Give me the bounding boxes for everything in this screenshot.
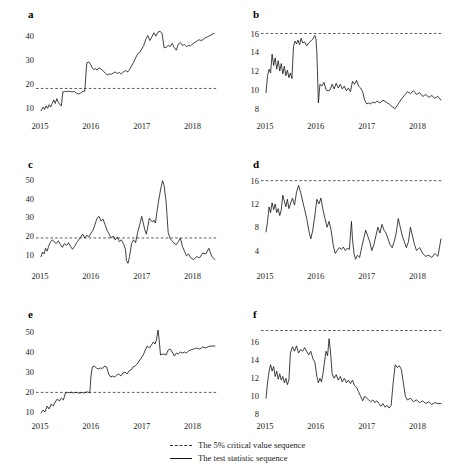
figure-container: a 102030402015201620172018 b 81012141620… xyxy=(0,0,449,475)
x-tick-label: 2016 xyxy=(307,271,324,281)
y-tick-label: 20 xyxy=(26,79,35,89)
panel-c: c 10203040502015201620172018 xyxy=(0,150,224,300)
panel-f: f 8101214162015201620172018 xyxy=(225,300,449,450)
x-tick-label: 2018 xyxy=(409,421,426,431)
test-statistic-series xyxy=(41,181,215,264)
test-statistic-series xyxy=(266,339,441,408)
y-tick-label: 16 xyxy=(251,337,260,347)
x-tick-label: 2015 xyxy=(32,421,49,431)
y-tick-label: 40 xyxy=(26,347,35,357)
x-tick-label: 2016 xyxy=(82,271,99,281)
y-tick-label: 8 xyxy=(255,409,259,419)
y-tick-label: 4 xyxy=(255,246,260,256)
x-tick-label: 2017 xyxy=(358,271,375,281)
x-tick-label: 2018 xyxy=(184,121,201,131)
x-tick-label: 2017 xyxy=(358,421,375,431)
x-tick-label: 2018 xyxy=(409,121,426,131)
panel-d: d 4812162015201620172018 xyxy=(225,150,449,300)
y-tick-label: 8 xyxy=(255,104,259,114)
panel-b: b 8101214162015201620172018 xyxy=(225,0,449,150)
y-tick-label: 50 xyxy=(26,175,35,185)
test-statistic-series xyxy=(266,185,441,259)
legend-solid-line-icon xyxy=(170,458,192,459)
y-tick-label: 30 xyxy=(26,367,35,377)
y-tick-label: 20 xyxy=(26,231,35,241)
panel-f-plot: 8101214162015201620172018 xyxy=(225,300,449,450)
y-tick-label: 10 xyxy=(26,250,35,260)
y-tick-label: 12 xyxy=(251,66,260,76)
x-tick-label: 2018 xyxy=(184,271,201,281)
x-tick-label: 2016 xyxy=(307,421,324,431)
y-tick-label: 16 xyxy=(251,29,260,39)
y-tick-label: 10 xyxy=(251,85,260,95)
panel-b-plot: 8101214162015201620172018 xyxy=(225,0,449,150)
panel-letter-b: b xyxy=(253,8,259,20)
x-tick-label: 2016 xyxy=(307,121,324,131)
x-tick-label: 2015 xyxy=(257,421,274,431)
y-tick-label: 14 xyxy=(251,47,260,57)
panel-letter-f: f xyxy=(253,308,257,320)
x-tick-label: 2017 xyxy=(358,121,375,131)
y-tick-label: 50 xyxy=(26,327,35,337)
y-tick-label: 12 xyxy=(251,199,260,209)
panel-letter-c: c xyxy=(28,158,33,170)
x-tick-label: 2018 xyxy=(184,421,201,431)
x-tick-label: 2017 xyxy=(133,121,150,131)
x-tick-label: 2015 xyxy=(257,271,274,281)
x-tick-label: 2017 xyxy=(133,421,150,431)
legend-dashed-line-icon xyxy=(170,445,192,446)
legend-label-statistic: The test statistic sequence xyxy=(198,453,288,464)
panel-d-plot: 4812162015201620172018 xyxy=(225,150,449,300)
panel-letter-e: e xyxy=(28,308,33,320)
y-tick-label: 8 xyxy=(255,222,259,232)
legend: The 5% critical value sequence The test … xyxy=(170,440,430,468)
y-tick-label: 10 xyxy=(251,391,260,401)
test-statistic-series xyxy=(41,330,215,413)
x-tick-label: 2018 xyxy=(409,271,426,281)
panel-a-plot: 102030402015201620172018 xyxy=(0,0,224,150)
y-tick-label: 30 xyxy=(26,55,35,65)
x-tick-label: 2016 xyxy=(82,421,99,431)
x-tick-label: 2017 xyxy=(133,271,150,281)
panel-a: a 102030402015201620172018 xyxy=(0,0,224,150)
y-tick-label: 40 xyxy=(26,194,35,204)
y-tick-label: 16 xyxy=(251,176,260,186)
x-tick-label: 2016 xyxy=(82,121,99,131)
x-tick-label: 2015 xyxy=(32,121,49,131)
y-tick-label: 10 xyxy=(26,103,35,113)
y-tick-label: 10 xyxy=(26,407,35,417)
panel-letter-d: d xyxy=(253,158,259,170)
test-statistic-series xyxy=(266,35,441,108)
y-tick-label: 40 xyxy=(26,31,35,41)
y-tick-label: 20 xyxy=(26,387,35,397)
x-tick-label: 2015 xyxy=(257,121,274,131)
panel-e: e 10203040502015201620172018 xyxy=(0,300,224,450)
y-tick-label: 30 xyxy=(26,212,35,222)
y-tick-label: 14 xyxy=(251,355,260,365)
panel-c-plot: 10203040502015201620172018 xyxy=(0,150,224,300)
legend-item-statistic: The test statistic sequence xyxy=(170,453,430,464)
panel-e-plot: 10203040502015201620172018 xyxy=(0,300,224,450)
y-tick-label: 12 xyxy=(251,373,260,383)
legend-label-critical: The 5% critical value sequence xyxy=(198,440,305,451)
test-statistic-series xyxy=(41,31,214,110)
panel-letter-a: a xyxy=(28,8,34,20)
x-tick-label: 2015 xyxy=(32,271,49,281)
legend-item-critical: The 5% critical value sequence xyxy=(170,440,430,451)
